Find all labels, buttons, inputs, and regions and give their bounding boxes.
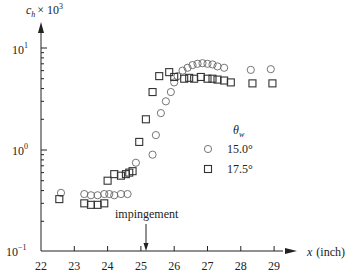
y-axis-label: ch× 103 xyxy=(26,2,63,19)
data-point-circle xyxy=(149,151,156,158)
data-point-circle xyxy=(247,66,254,73)
x-tick-label: 28 xyxy=(235,259,247,273)
x-axis-label: x(inch) xyxy=(306,245,345,259)
legend-circle-icon xyxy=(204,145,211,152)
data-point-square xyxy=(166,69,173,76)
data-point-square xyxy=(101,200,108,207)
x-axis-arrow-icon xyxy=(285,248,297,254)
data-point-circle xyxy=(124,190,131,197)
data-point-square xyxy=(104,177,111,184)
data-point-circle xyxy=(132,159,139,166)
y-tick-label-10-minus1: 10−1 xyxy=(6,243,27,259)
data-point-square xyxy=(149,89,156,96)
data-point-square xyxy=(81,200,88,207)
y-tick-label-10-0: 100 xyxy=(12,142,28,158)
x-tick-label: 24 xyxy=(102,259,114,273)
y-axis-arrow-icon xyxy=(38,22,44,33)
legend-label-17-5: 17.5° xyxy=(227,162,253,176)
x-tick-label: 23 xyxy=(68,259,80,273)
data-point-square xyxy=(94,201,101,208)
data-point-square xyxy=(227,79,234,86)
data-point-circle xyxy=(117,190,124,197)
data-point-circle xyxy=(81,190,88,197)
x-tick-label: 26 xyxy=(168,259,180,273)
y-tick-label-10-1: 101 xyxy=(12,41,28,57)
legend: θw 15.0° 17.5° xyxy=(204,123,253,176)
data-point-circle xyxy=(221,64,228,71)
data-point-square xyxy=(249,80,256,87)
data-point-square xyxy=(87,201,94,208)
y-axis: ch× 103 101 100 10−1 xyxy=(6,2,63,259)
legend-square-icon xyxy=(205,166,212,173)
x-tick-label: 22 xyxy=(35,259,47,273)
data-point-circle xyxy=(152,131,159,138)
x-axis: 2223242526272829 x(inch) xyxy=(35,245,345,273)
data-point-circle xyxy=(94,192,101,199)
data-point-square xyxy=(156,73,163,80)
data-point-circle xyxy=(267,66,274,73)
legend-title: θw xyxy=(233,123,245,139)
data-point-square xyxy=(111,171,118,178)
legend-label-15: 15.0° xyxy=(227,142,253,156)
x-tick-label: 25 xyxy=(135,259,147,273)
data-point-circle xyxy=(157,110,164,117)
impingement-arrow-icon xyxy=(144,243,149,251)
data-point-square xyxy=(204,75,211,82)
data-point-square xyxy=(197,73,204,80)
data-point-square xyxy=(269,80,276,87)
x-tick-label: 29 xyxy=(268,259,280,273)
data-point-circle xyxy=(87,192,94,199)
x-tick-label: 27 xyxy=(202,259,214,273)
impingement-annotation: impingement xyxy=(115,207,179,251)
data-point-square xyxy=(142,116,149,123)
data-point-circle xyxy=(167,88,174,95)
data-point-circle xyxy=(111,192,118,199)
data-point-circle xyxy=(106,190,113,197)
data-point-square xyxy=(136,138,143,145)
chart: ch× 103 101 100 10−1 2223242526272829 x(… xyxy=(0,0,353,280)
data-point-circle xyxy=(162,98,169,105)
data-point-square xyxy=(221,77,228,84)
impingement-label: impingement xyxy=(115,207,179,221)
